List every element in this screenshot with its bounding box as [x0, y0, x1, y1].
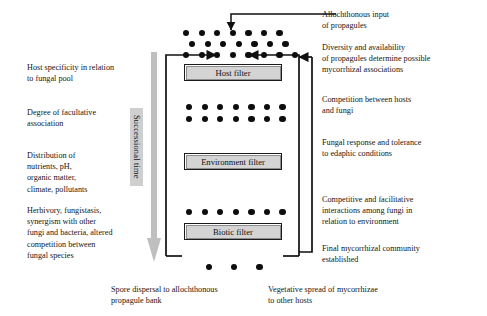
propagule-dot: [202, 209, 208, 215]
dot-row-mid-2: [186, 116, 286, 122]
propagule-dot: [256, 264, 262, 270]
dot-row-bottom: [206, 264, 263, 270]
propagule-dot: [292, 52, 298, 58]
propagule-dot: [279, 209, 285, 215]
environment-filter-label: Environment filter: [186, 155, 281, 169]
propagule-dot: [245, 52, 251, 58]
propagule-dot: [267, 41, 273, 47]
propagule-dot: [233, 104, 239, 110]
host-filter-box: Host filter: [184, 64, 282, 81]
propagule-dot: [183, 30, 189, 36]
propagule-dot: [202, 116, 208, 122]
propagule-dot: [230, 30, 236, 36]
propagule-dot: [245, 30, 251, 36]
propagule-dot: [186, 104, 192, 110]
propagule-dot: [230, 52, 236, 58]
propagule-dot: [217, 104, 223, 110]
note-facultative: Degree of facultative association: [27, 107, 145, 129]
note-spore-dispersal: Spore dispersal to allochthonous propagu…: [111, 284, 261, 306]
propagule-dot: [186, 209, 192, 215]
propagule-dot: [248, 104, 254, 110]
propagule-dot: [236, 41, 242, 47]
propagule-dot: [276, 52, 282, 58]
propagule-dot: [261, 52, 267, 58]
note-fungal-response: Fungal response and tolerance to edaphic…: [322, 137, 482, 159]
propagule-dot: [199, 52, 205, 58]
propagule-dot: [214, 52, 220, 58]
propagule-dot: [217, 209, 223, 215]
note-competitive-facilitative: Competitive and facilitative interaction…: [322, 194, 482, 228]
dot-row-biotic-1: [186, 209, 286, 215]
dot-row-top-2: [189, 41, 289, 47]
propagule-dot: [282, 41, 288, 47]
successional-time-arrow: [146, 52, 162, 264]
propagule-dot: [279, 104, 285, 110]
note-vegetative-spread: Vegetative spread of mycorrhizae to othe…: [268, 284, 428, 306]
propagule-dot: [206, 264, 212, 270]
propagule-dot: [264, 116, 270, 122]
note-competition: Competition between hosts and fungi: [322, 94, 482, 116]
propagule-dot: [189, 41, 195, 47]
propagule-dot: [248, 209, 254, 215]
diagram-canvas: Successional time Host filter: [0, 0, 487, 316]
propagule-dot: [231, 264, 237, 270]
note-host-specificity: Host specificity in relation to fungal p…: [27, 62, 145, 84]
propagule-dot: [279, 116, 285, 122]
propagule-dot: [220, 41, 226, 47]
propagule-dot: [217, 116, 223, 122]
allochthonous-input-arrow: [231, 14, 336, 30]
propagule-dot: [233, 116, 239, 122]
biotic-filter-box: Biotic filter: [184, 223, 282, 240]
propagule-dot: [205, 41, 211, 47]
dot-row-mid-1: [186, 104, 286, 110]
dot-row-top-3: [183, 52, 298, 58]
propagule-dot: [202, 104, 208, 110]
note-diversity: Diversity and availability of propagules…: [322, 42, 487, 76]
note-final-community: Final mycorrhizal community established: [322, 243, 482, 265]
propagule-dot: [264, 104, 270, 110]
note-herbivory: Herbivory, fungistasis, synergism with o…: [27, 205, 145, 261]
propagule-dot: [261, 30, 267, 36]
propagule-dot: [199, 30, 205, 36]
propagule-dot: [248, 116, 254, 122]
environment-filter-box: Environment filter: [184, 153, 282, 170]
host-filter-label: Host filter: [186, 66, 281, 80]
biotic-filter-label: Biotic filter: [186, 225, 281, 239]
dot-row-top-1: [183, 30, 283, 36]
note-distribution: Distribution of nutrients, pH, organic m…: [27, 150, 137, 195]
propagule-dot: [251, 41, 257, 47]
propagule-dot: [186, 116, 192, 122]
note-allochthonous-input: Allochthonous input of propagules: [322, 9, 482, 31]
propagule-dot: [264, 209, 270, 215]
propagule-dot: [183, 52, 189, 58]
right-note-bracket: [299, 57, 312, 252]
propagule-dot: [214, 30, 220, 36]
propagule-dot: [233, 209, 239, 215]
propagule-dot: [276, 30, 282, 36]
